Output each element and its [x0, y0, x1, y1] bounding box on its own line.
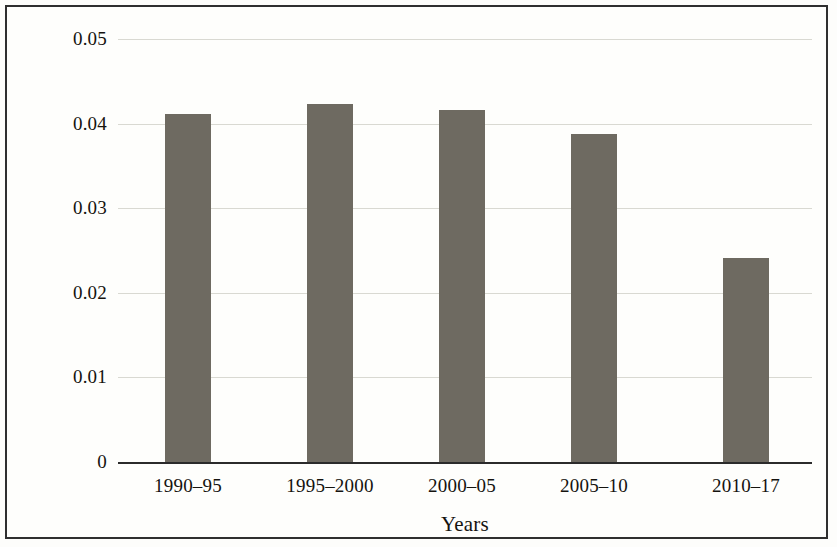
- x-axis-title: Years: [118, 512, 812, 537]
- bar-2005-10: 2005–10: [571, 134, 617, 462]
- bar-1990-95: 1990–95: [165, 114, 211, 462]
- y-tick-label: 0.04: [73, 113, 107, 135]
- y-tick-label: 0.05: [73, 28, 107, 50]
- y-tick-label: 0: [97, 451, 107, 473]
- chart-screenshot: Annual net emigration rate (percent) 0.0…: [0, 0, 837, 547]
- y-tick-label: 0.02: [73, 282, 107, 304]
- x-tick-label: 2005–10: [560, 475, 628, 497]
- x-tick-label: 2010–17: [712, 475, 780, 497]
- gridline-0.05: 0.05: [118, 39, 812, 40]
- y-tick-label: 0.01: [73, 366, 107, 388]
- x-axis-line: 0: [118, 462, 812, 464]
- bar-2000-05: 2000–05: [439, 110, 485, 462]
- y-tick-label: 0.03: [73, 197, 107, 219]
- x-tick-label: 2000–05: [428, 475, 496, 497]
- figure-frame: Annual net emigration rate (percent) 0.0…: [5, 5, 828, 539]
- bar-1995-2000: 1995–2000: [307, 104, 353, 462]
- x-tick-label: 1990–95: [154, 475, 222, 497]
- bar-2010-17: 2010–17: [723, 258, 769, 462]
- plot-area: 0.05 0.04 0.03 0.02 0.01 0 1990–95 199: [118, 39, 812, 462]
- x-tick-label: 1995–2000: [286, 475, 373, 497]
